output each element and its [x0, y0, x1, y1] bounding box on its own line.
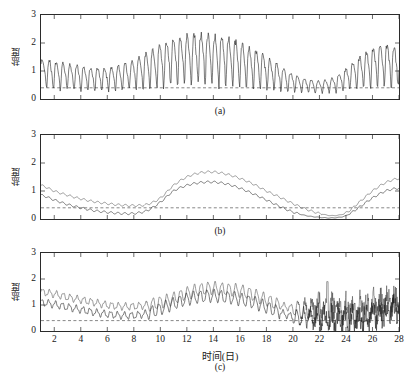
y-axis-label: 盐度 [8, 276, 21, 308]
x-tick-label: 2 [45, 335, 63, 345]
x-tickmarks-panel-b [41, 135, 399, 219]
x-tickmarks-panel-c [41, 253, 399, 331]
x-tick-label: 12 [178, 335, 196, 345]
x-tick-label: 26 [363, 335, 381, 345]
x-tick-label: 4 [72, 335, 90, 345]
x-tick-label: 8 [125, 335, 143, 345]
y-tick-label: 3 [22, 10, 36, 20]
plot-area-panel-c [40, 252, 400, 332]
lower-curve-panel-c [41, 289, 399, 331]
x-axis-label: 时间(日) [160, 348, 280, 363]
y-tick-label: 1 [22, 66, 36, 76]
y-axis-label: 盐度 [8, 41, 21, 73]
curves-panel-a [41, 15, 399, 99]
x-tick-label: 24 [337, 335, 355, 345]
upper-curve-panel-c [41, 281, 399, 326]
signal-curve-panel-a [41, 32, 399, 94]
upper-envelope-panel-b [41, 171, 399, 216]
x-tick-label: 14 [204, 335, 222, 345]
x-tick-label: 22 [310, 335, 328, 345]
y-tick-label: 0 [22, 214, 36, 224]
x-tick-label: 20 [284, 335, 302, 345]
y-tick-label: 2 [22, 38, 36, 48]
y-tick-label: 3 [22, 248, 36, 258]
y-tick-label: 1 [22, 300, 36, 310]
y-tick-label: 0 [22, 326, 36, 336]
y-axis-label: 盐度 [8, 161, 21, 193]
x-tick-label: 18 [257, 335, 275, 345]
panel-label-a: (a) [200, 106, 240, 116]
x-tick-label: 28 [390, 335, 408, 345]
y-tick-label: 3 [22, 130, 36, 140]
y-tick-label: 1 [22, 186, 36, 196]
curves-panel-b [41, 135, 399, 219]
salinity-time-series-figure: 0123盐度(a)0123盐度(b)0123盐度(c)2468101214161… [0, 0, 416, 376]
curves-panel-c [41, 253, 399, 331]
panel-label-c: (c) [200, 362, 240, 372]
x-tick-label: 10 [151, 335, 169, 345]
plot-area-panel-a [40, 14, 400, 100]
panel-label-b: (b) [200, 226, 240, 236]
y-tick-label: 0 [22, 94, 36, 104]
x-tick-label: 16 [231, 335, 249, 345]
plot-area-panel-b [40, 134, 400, 220]
x-tick-label: 6 [98, 335, 116, 345]
y-tick-label: 2 [22, 158, 36, 168]
y-tick-label: 2 [22, 274, 36, 284]
